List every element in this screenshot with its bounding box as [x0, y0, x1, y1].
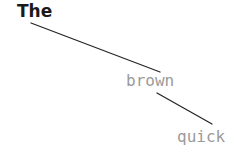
connector-the-to-brown	[31, 23, 160, 72]
word-node-quick[interactable]: quick	[177, 129, 225, 145]
connector-brown-to-quick	[157, 93, 212, 124]
word-node-brown[interactable]: brown	[126, 73, 174, 89]
word-node-the[interactable]: The	[17, 3, 52, 20]
diagram-canvas: The brown quick	[0, 0, 250, 155]
